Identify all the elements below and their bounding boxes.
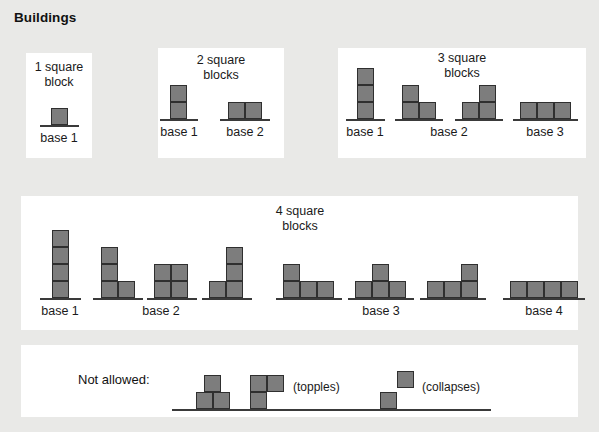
block — [537, 102, 554, 119]
ground-line — [40, 125, 79, 127]
block — [402, 102, 419, 119]
block — [170, 85, 187, 102]
block — [300, 281, 317, 298]
block — [444, 281, 461, 298]
ground-line — [420, 298, 486, 300]
block — [226, 247, 243, 264]
block — [170, 102, 187, 119]
block — [196, 392, 213, 409]
figure-one-block-base1: base 1 — [26, 53, 92, 158]
block — [461, 281, 478, 298]
block — [228, 102, 245, 119]
block — [520, 102, 537, 119]
ground-line — [93, 298, 143, 300]
diagram-canvas: Buildings 1 square block base 1 2 square… — [0, 0, 599, 432]
base-label: base 2 — [215, 125, 275, 139]
panel-two-blocks-caption: 2 square blocks — [158, 53, 284, 83]
panel-four-blocks-caption: 4 square blocks — [238, 204, 362, 234]
block — [118, 281, 135, 298]
ground-line — [220, 119, 270, 121]
block — [52, 230, 69, 247]
ground-line — [395, 119, 443, 121]
block — [479, 85, 496, 102]
block — [226, 264, 243, 281]
ground-line — [348, 298, 414, 300]
not-allowed-ground-line — [172, 409, 491, 411]
block — [402, 85, 419, 102]
block — [554, 102, 571, 119]
block — [527, 281, 544, 298]
block — [357, 102, 374, 119]
base-label: base 1 — [30, 304, 90, 318]
base-label: base 3 — [351, 304, 411, 318]
block — [283, 264, 300, 281]
block — [101, 264, 118, 281]
block — [171, 264, 188, 281]
ground-line — [513, 119, 578, 121]
block — [372, 264, 389, 281]
base-label: base 3 — [515, 125, 575, 139]
block — [154, 264, 171, 281]
ground-line — [202, 298, 252, 300]
block — [357, 85, 374, 102]
block — [389, 281, 406, 298]
block — [283, 281, 300, 298]
base-label: base 1 — [149, 125, 209, 139]
ground-line — [503, 298, 585, 300]
block — [250, 392, 267, 409]
block — [204, 375, 221, 392]
block — [52, 281, 69, 298]
panel-three-blocks-caption: 3 square blocks — [338, 51, 586, 81]
block — [397, 371, 414, 388]
annotation-topples: (topples) — [293, 380, 340, 394]
base-label: base 1 — [26, 131, 92, 145]
block — [209, 281, 226, 298]
page-title: Buildings — [14, 10, 76, 25]
block — [267, 375, 284, 392]
block — [51, 108, 68, 125]
ground-line — [160, 119, 198, 121]
block — [462, 102, 479, 119]
block — [461, 264, 478, 281]
block — [52, 264, 69, 281]
block — [357, 68, 374, 85]
ground-line — [276, 298, 342, 300]
ground-line — [455, 119, 503, 121]
annotation-collapses: (collapses) — [422, 380, 480, 394]
base-label: base 2 — [419, 125, 479, 139]
block — [52, 247, 69, 264]
block — [510, 281, 527, 298]
ground-line — [346, 119, 385, 121]
block — [245, 102, 262, 119]
ground-line — [147, 298, 197, 300]
block — [380, 392, 397, 409]
block — [226, 281, 243, 298]
block — [154, 281, 171, 298]
block — [427, 281, 444, 298]
block — [250, 375, 267, 392]
block — [101, 247, 118, 264]
block — [419, 102, 436, 119]
block — [171, 281, 188, 298]
base-label: base 2 — [131, 304, 191, 318]
base-label: base 4 — [514, 304, 574, 318]
block — [372, 281, 389, 298]
block — [355, 281, 372, 298]
not-allowed-label: Not allowed: — [78, 372, 150, 387]
block — [317, 281, 334, 298]
base-label: base 1 — [335, 125, 395, 139]
block — [561, 281, 578, 298]
block — [101, 281, 118, 298]
block — [544, 281, 561, 298]
block — [213, 392, 230, 409]
block — [479, 102, 496, 119]
ground-line — [40, 298, 81, 300]
